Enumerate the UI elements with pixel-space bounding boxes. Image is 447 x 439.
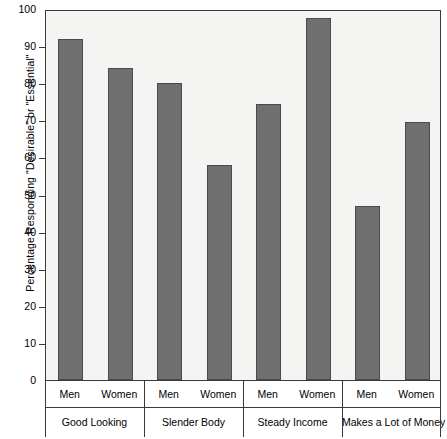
group-label: Makes a Lot of Money [342,416,441,428]
bar [256,104,281,380]
group-label: Steady Income [243,416,342,428]
group-label: Slender Body [144,416,243,428]
bar [306,18,331,380]
y-axis-tick-label: 30 [24,263,36,275]
y-axis-tick-label: 80 [24,77,36,89]
plot-area [45,10,441,381]
y-axis-tick-label: 40 [24,226,36,238]
y-axis-tick-label: 90 [24,40,36,52]
group-divider-line [342,381,343,437]
y-axis-tick-label: 20 [24,300,36,312]
group-label: Good Looking [45,416,144,428]
bar [355,206,380,380]
bar [207,165,232,380]
bar [58,39,83,380]
gender-label: Women [392,388,442,400]
gender-label: Women [194,388,244,400]
gender-label: Men [45,388,95,400]
axis-edge-line [45,381,46,437]
gender-label: Men [144,388,194,400]
bar [405,122,430,380]
y-axis-tick-label: 100 [18,3,36,15]
bars-layer [46,11,440,380]
y-axis-tick-label: 10 [24,337,36,349]
gender-label: Men [342,388,392,400]
y-axis-tick-label: 0 [30,374,36,386]
axis-edge-line [440,381,441,437]
y-axis-tick-label: 50 [24,189,36,201]
x-axis-labels: MenWomenMenWomenMenWomenMenWomen Good Lo… [45,381,441,437]
y-axis-title: Percentage Responding "Desirable" or "Es… [24,8,36,338]
gender-label: Men [243,388,293,400]
bar-chart: Percentage Responding "Desirable" or "Es… [0,0,447,439]
group-divider-line [144,381,145,437]
y-axis-tick-label: 70 [24,114,36,126]
gender-label: Women [95,388,145,400]
bar [108,68,133,380]
bar [157,83,182,380]
group-divider-line [243,381,244,437]
y-axis-tick-label: 60 [24,151,36,163]
gender-label: Women [293,388,343,400]
